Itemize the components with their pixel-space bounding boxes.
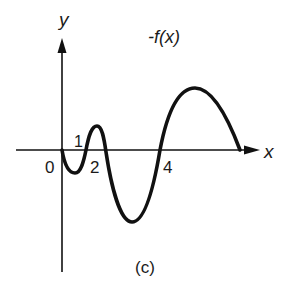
origin-label: 0: [45, 159, 54, 176]
y-axis-label: y: [59, 10, 69, 29]
tick-label-4: 4: [163, 159, 172, 176]
y-axis-arrow-icon: [58, 38, 67, 53]
tick-label-2: 2: [90, 159, 99, 176]
x-axis-label: x: [264, 142, 274, 161]
figure-caption: (c): [135, 259, 155, 276]
function-label: -f(x): [148, 28, 180, 46]
tick-label-1: 1: [74, 134, 83, 150]
x-axis-arrow-icon: [244, 146, 260, 155]
function-plot: [0, 0, 290, 298]
function-curve: [62, 88, 240, 222]
